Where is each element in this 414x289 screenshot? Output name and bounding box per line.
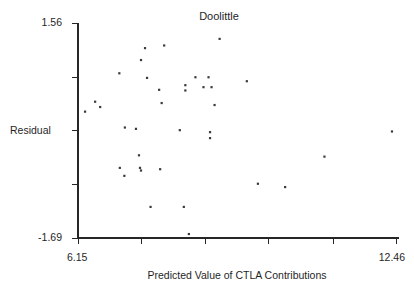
data-point <box>161 102 163 104</box>
data-point <box>159 168 161 170</box>
data-point <box>118 72 120 74</box>
x-axis-tick-label-max: 12.46 <box>379 252 405 263</box>
data-point <box>140 59 142 61</box>
data-point-group <box>84 38 393 235</box>
data-point <box>219 38 221 40</box>
data-point <box>149 206 151 208</box>
data-point <box>209 131 211 133</box>
plot-canvas <box>0 0 414 289</box>
data-point <box>139 167 141 169</box>
data-point <box>140 169 142 171</box>
x-axis-tick-label-min: 6.15 <box>67 252 87 263</box>
x-axis-title: Predicted Value of CTLA Contributions <box>148 270 327 281</box>
y-axis-tick-label-min: -1.69 <box>38 232 62 243</box>
data-point <box>184 89 186 91</box>
data-point <box>146 77 148 79</box>
data-point <box>163 44 165 46</box>
data-point <box>179 129 181 131</box>
y-axis-ticks <box>72 24 78 239</box>
data-point <box>94 101 96 103</box>
data-point <box>99 106 101 108</box>
data-point <box>284 186 286 188</box>
data-point <box>184 84 186 86</box>
data-point <box>207 76 209 78</box>
y-axis-title: Residual <box>10 125 51 136</box>
chart-title: Doolittle <box>199 11 239 22</box>
data-point <box>144 47 146 49</box>
data-point <box>246 80 248 82</box>
data-point <box>135 128 137 130</box>
data-point <box>391 130 393 132</box>
data-point <box>138 154 140 156</box>
data-point <box>213 104 215 106</box>
data-point <box>188 233 190 235</box>
data-point <box>323 156 325 158</box>
data-point <box>124 126 126 128</box>
data-point <box>194 76 196 78</box>
data-point <box>257 183 259 185</box>
data-point <box>119 167 121 169</box>
x-axis-ticks <box>79 238 397 244</box>
scatter-chart: Doolittle 1.56 -1.69 Residual 6.15 12.46… <box>0 0 414 289</box>
data-point <box>210 86 212 88</box>
data-point <box>158 89 160 91</box>
axes-group <box>78 23 399 238</box>
data-point <box>183 206 185 208</box>
data-point <box>209 137 211 139</box>
data-point <box>202 86 204 88</box>
data-point <box>123 175 125 177</box>
y-axis-tick-label-max: 1.56 <box>42 17 62 28</box>
data-point <box>84 111 86 113</box>
